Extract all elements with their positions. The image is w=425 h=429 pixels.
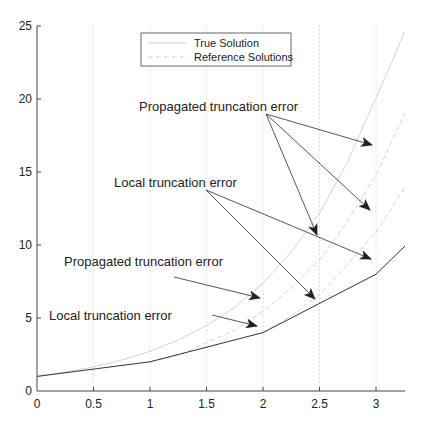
arrows: [174, 114, 372, 326]
legend-reference-solutions: Reference Solutions: [194, 51, 294, 63]
y-tick-15: 15: [19, 165, 33, 179]
legend: True Solution Reference Solutions: [141, 33, 294, 66]
x-tick-0: 0: [34, 397, 41, 411]
annotation-local-lower: Local truncation error: [49, 308, 173, 323]
annotation-propagated-top: Propagated truncation error: [139, 99, 299, 114]
annotation-local-middle: Local truncation error: [114, 175, 238, 190]
x-tick-3: 3: [373, 397, 380, 411]
y-tick-25: 25: [19, 19, 33, 33]
x-tick-2.5: 2.5: [311, 397, 328, 411]
annotations: Propagated truncation error Local trunca…: [49, 99, 299, 323]
annotation-propagated-lower: Propagated truncation error: [64, 254, 224, 269]
y-tick-labels: 25 20 15 10 5 0: [19, 19, 33, 398]
legend-true-solution: True Solution: [194, 37, 259, 49]
x-tick-0.5: 0.5: [85, 397, 102, 411]
y-tick-5: 5: [25, 311, 32, 325]
y-tick-10: 10: [19, 238, 33, 252]
x-tick-2: 2: [260, 397, 267, 411]
grid: [94, 26, 377, 391]
chart: 25 20 15 10 5 0 0 0.5 1 1.5 2 2.5 3 True…: [0, 0, 425, 429]
x-tick-1: 1: [147, 397, 154, 411]
plot-svg: 25 20 15 10 5 0 0 0.5 1 1.5 2 2.5 3 True…: [0, 0, 425, 429]
y-tick-0: 0: [25, 384, 32, 398]
y-tick-20: 20: [19, 92, 33, 106]
x-tick-labels: 0 0.5 1 1.5 2 2.5 3: [34, 397, 380, 411]
x-tick-1.5: 1.5: [198, 397, 215, 411]
